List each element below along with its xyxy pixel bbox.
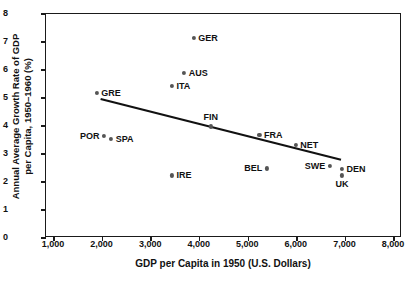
x-tick-label: 4,000 xyxy=(177,240,221,249)
y-tick-mark xyxy=(41,153,46,154)
y-axis-title-line2: per Capita, 1950–1960 (%) xyxy=(21,58,32,175)
y-tick-label: 3 xyxy=(0,149,8,158)
y-tick-label: 6 xyxy=(0,65,8,74)
plot-area xyxy=(45,13,401,237)
y-tick-mark xyxy=(41,13,46,14)
y-tick-label: 1 xyxy=(0,205,8,214)
x-tick-label: 5,000 xyxy=(225,240,269,249)
y-tick-mark xyxy=(41,125,46,126)
scatter-chart-figure: Annual Average Growth Rate of GDP per Ca… xyxy=(0,0,412,282)
y-tick-mark xyxy=(41,69,46,70)
y-tick-label: 7 xyxy=(0,37,8,46)
x-tick-label: 1,000 xyxy=(31,240,75,249)
x-tick-label: 6,000 xyxy=(274,240,318,249)
x-tick-label: 8,000 xyxy=(371,240,412,249)
y-axis-title: Annual Average Growth Rate of GDP per Ca… xyxy=(10,12,33,222)
x-tick-label: 2,000 xyxy=(80,240,124,249)
x-axis-title: GDP per Capita in 1950 (U.S. Dollars) xyxy=(45,258,401,269)
y-tick-mark xyxy=(41,209,46,210)
y-tick-mark xyxy=(41,181,46,182)
y-tick-label: 2 xyxy=(0,177,8,186)
x-tick-label: 3,000 xyxy=(128,240,172,249)
y-tick-label: 0 xyxy=(0,233,8,242)
y-tick-mark xyxy=(41,41,46,42)
y-tick-mark xyxy=(41,97,46,98)
x-tick-label: 7,000 xyxy=(322,240,366,249)
y-tick-label: 8 xyxy=(0,9,8,18)
y-axis-title-line1: Annual Average Growth Rate of GDP xyxy=(10,34,21,200)
y-tick-label: 5 xyxy=(0,93,8,102)
y-tick-label: 4 xyxy=(0,121,8,130)
